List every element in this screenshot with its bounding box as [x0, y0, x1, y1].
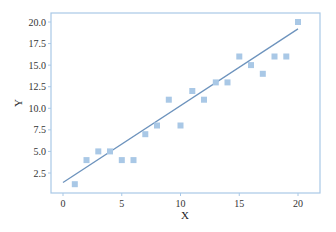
data-point	[107, 148, 113, 154]
x-tick-label: 5	[119, 198, 124, 209]
y-tick-label: 2.5	[34, 168, 47, 179]
data-point	[189, 88, 195, 94]
y-tick-label: 15.0	[29, 60, 47, 71]
x-tick-label: 10	[176, 198, 186, 209]
data-point	[283, 54, 289, 60]
data-point	[260, 71, 266, 77]
data-point	[201, 97, 207, 103]
data-point	[95, 148, 101, 154]
x-tick-label: 15	[234, 198, 244, 209]
data-point	[119, 157, 125, 163]
y-tick-label: 7.5	[34, 124, 47, 135]
data-point	[166, 97, 172, 103]
x-tick-label: 0	[61, 198, 66, 209]
data-point	[295, 19, 301, 25]
data-point	[213, 79, 219, 85]
data-point	[225, 79, 231, 85]
data-point	[84, 157, 90, 163]
x-axis-label: X	[181, 209, 189, 221]
data-point	[272, 54, 278, 60]
data-point	[248, 62, 254, 68]
y-tick-label: 5.0	[34, 146, 47, 157]
data-point	[131, 157, 137, 163]
y-axis-ticks: 2.55.07.510.012.515.017.520.0	[29, 17, 52, 179]
data-point	[142, 131, 148, 137]
data-point	[72, 181, 78, 187]
x-axis-ticks: 05101520	[61, 193, 304, 209]
data-point	[236, 54, 242, 60]
x-tick-label: 20	[293, 198, 303, 209]
y-tick-label: 12.5	[29, 81, 47, 92]
y-tick-label: 17.5	[29, 38, 47, 49]
y-axis-label: Y	[12, 99, 24, 107]
scatter-chart: 05101520 2.55.07.510.012.515.017.520.0 X…	[0, 0, 336, 232]
data-point	[178, 123, 184, 129]
data-point	[154, 123, 160, 129]
y-tick-label: 20.0	[29, 17, 47, 28]
y-tick-label: 10.0	[29, 103, 47, 114]
